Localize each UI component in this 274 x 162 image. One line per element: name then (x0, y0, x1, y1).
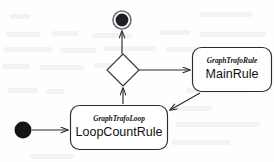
edge-mainrule-to-loop[interactable] (170, 93, 200, 110)
state-node-loopcountrule-shape[interactable] (71, 106, 168, 150)
diagram-canvas: GraphTrafoRule MainRule GraphTrafoLoop L… (0, 0, 274, 162)
initial-node[interactable] (15, 122, 32, 139)
diagram-graphics (0, 0, 274, 162)
final-node[interactable] (113, 11, 131, 29)
state-node-mainrule-shape[interactable] (193, 48, 272, 92)
decision-node[interactable] (107, 54, 139, 86)
